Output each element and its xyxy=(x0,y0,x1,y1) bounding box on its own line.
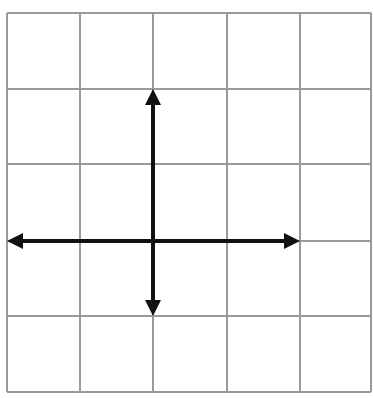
grid-diagram xyxy=(0,0,373,398)
arrowhead-icon xyxy=(284,233,300,249)
arrowhead-icon xyxy=(145,300,161,316)
arrowhead-icon xyxy=(145,89,161,105)
grid-lines xyxy=(7,13,371,392)
axis-arrows xyxy=(7,89,300,316)
arrowhead-icon xyxy=(7,233,23,249)
arrow-down xyxy=(145,241,161,316)
